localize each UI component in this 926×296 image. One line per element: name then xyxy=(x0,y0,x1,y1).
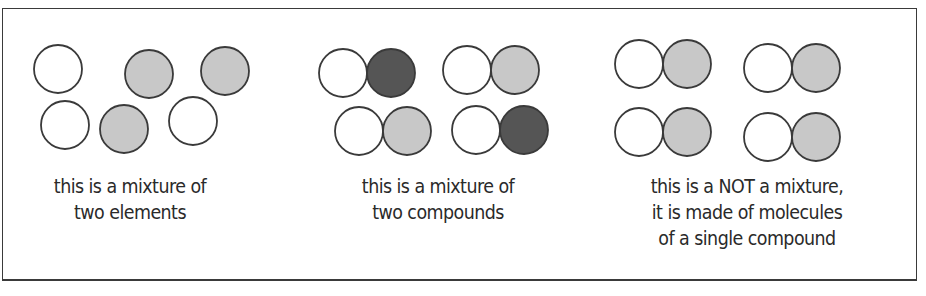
dark-atom-circle xyxy=(367,49,415,97)
light-atom-circle xyxy=(792,44,840,92)
white-atom-circle xyxy=(452,106,500,154)
white-atom-circle xyxy=(744,44,792,92)
mixture-of-elements-atoms xyxy=(34,45,249,153)
white-atom-circle xyxy=(169,97,217,145)
caption-mixture-of-compounds: this is a mixture of two compounds xyxy=(300,173,576,225)
light-atom-circle xyxy=(663,108,711,156)
white-atom-circle xyxy=(41,101,89,149)
light-atom-circle xyxy=(383,107,431,155)
mixture-of-compounds-molecules xyxy=(319,46,548,155)
atoms-canvas xyxy=(0,0,926,296)
caption-line: this is a mixture of xyxy=(0,173,268,199)
caption-single-compound: this is a NOT a mixture, it is made of m… xyxy=(609,173,885,251)
white-atom-circle xyxy=(744,113,792,161)
white-atom-circle xyxy=(443,46,491,94)
light-atom-circle xyxy=(491,46,539,94)
caption-line: this is a NOT a mixture, xyxy=(609,173,885,199)
caption-line: two compounds xyxy=(300,199,576,225)
dark-atom-circle xyxy=(500,106,548,154)
caption-line: of a single compound xyxy=(609,225,885,251)
white-atom-circle xyxy=(615,40,663,88)
light-atom-circle xyxy=(792,113,840,161)
single-compound-molecules xyxy=(615,40,840,161)
white-atom-circle xyxy=(335,107,383,155)
light-atom-circle xyxy=(201,47,249,95)
light-atom-circle xyxy=(125,50,173,98)
caption-line: two elements xyxy=(0,199,268,225)
white-atom-circle xyxy=(34,45,82,93)
white-atom-circle xyxy=(615,108,663,156)
caption-line: it is made of molecules xyxy=(609,199,885,225)
white-atom-circle xyxy=(319,49,367,97)
caption-line: this is a mixture of xyxy=(300,173,576,199)
light-atom-circle xyxy=(100,105,148,153)
light-atom-circle xyxy=(663,40,711,88)
caption-mixture-of-elements: this is a mixture of two elements xyxy=(0,173,268,225)
